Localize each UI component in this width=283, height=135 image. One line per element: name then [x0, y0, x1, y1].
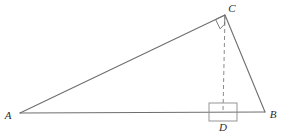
vertex-label-b: B — [270, 108, 277, 120]
vertex-label-a: A — [4, 109, 12, 121]
figure-background — [0, 0, 283, 135]
vertex-label-d: D — [218, 121, 227, 133]
geometry-canvas: A B C D — [0, 0, 283, 135]
geometry-figure: A B C D — [0, 0, 283, 135]
vertex-label-c: C — [228, 2, 236, 14]
